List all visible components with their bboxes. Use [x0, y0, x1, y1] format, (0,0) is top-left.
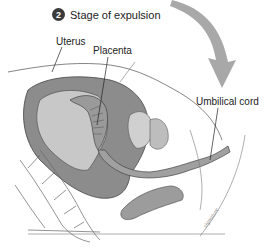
step-number-badge: 2 — [52, 8, 65, 21]
label-uterus: Uterus — [56, 37, 85, 47]
label-umbilical-cord: Umbilical cord — [196, 97, 259, 107]
stage-title-text: Stage of expulsion — [70, 9, 161, 21]
curved-arrow-icon — [170, 0, 236, 88]
artist-signature: signature — [202, 206, 220, 228]
uterus-leader-line — [52, 47, 62, 72]
umbilical-cord-leader-line — [210, 108, 218, 160]
anatomical-illustration: signature — [0, 0, 267, 250]
label-placenta: Placenta — [93, 46, 132, 56]
stage-title: 2 Stage of expulsion — [52, 8, 161, 21]
